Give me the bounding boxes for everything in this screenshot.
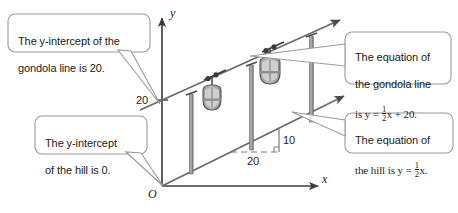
eq-suffix: x. bbox=[419, 164, 427, 176]
callout-line: of the hill is 0. bbox=[45, 164, 111, 176]
origin-label: O bbox=[148, 187, 157, 202]
tower-3 bbox=[306, 33, 317, 122]
callout-line: The y-intercept of the bbox=[18, 35, 120, 47]
callout-equation-line: is y = 12x + 20. bbox=[355, 108, 417, 120]
x-axis-label: x bbox=[322, 172, 327, 187]
tower-1 bbox=[186, 91, 197, 174]
callout-gondola-intercept-text: The y-intercept of the gondola line is 2… bbox=[18, 21, 148, 75]
callout-hill-equation-text: The equation of the hill is y = 12x. bbox=[355, 120, 453, 179]
tower-2 bbox=[246, 62, 257, 150]
callout-line: The equation of bbox=[355, 134, 430, 146]
y-axis-label: y bbox=[170, 6, 175, 21]
callout-gondola-equation-text: The equation of the gondola line is y = … bbox=[355, 37, 451, 123]
gondola-car-1 bbox=[203, 70, 226, 110]
callout-line: The y-intercept bbox=[45, 137, 117, 149]
fraction-numerator: 1 bbox=[382, 105, 386, 114]
eq-prefix: the hill is y = bbox=[355, 164, 414, 176]
slope-rise-label: 10 bbox=[283, 134, 295, 146]
callout-equation-line: the hill is y = 12x. bbox=[355, 164, 428, 176]
eq-suffix: x + 20. bbox=[387, 108, 417, 120]
callout-line: gondola line is 20. bbox=[18, 62, 105, 74]
callout-hill-intercept-text: The y-intercept of the hill is 0. bbox=[45, 123, 145, 177]
axes-group bbox=[157, 18, 318, 186]
y-tick-label-20: 20 bbox=[136, 94, 148, 106]
slope-run-label: 20 bbox=[247, 155, 259, 167]
gondola-car-2 bbox=[260, 42, 284, 84]
callout-line: the gondola line bbox=[355, 78, 431, 90]
callout-line: The equation of bbox=[355, 51, 430, 63]
eq-prefix: is y = bbox=[355, 108, 382, 120]
